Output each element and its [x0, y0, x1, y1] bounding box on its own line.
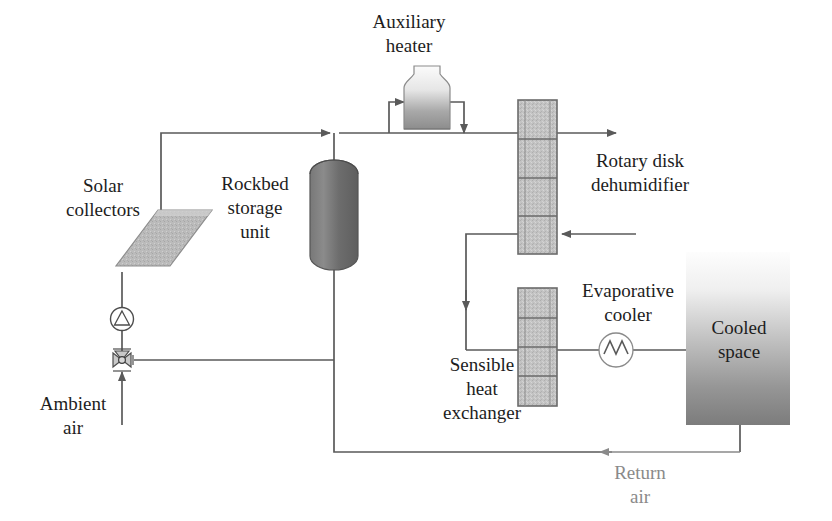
- label-ambient-air-line1: Ambient: [40, 393, 107, 414]
- pipe-heater-outlet: [449, 102, 464, 127]
- circulation-pump: [111, 308, 134, 331]
- label-solar-collectors-line1: Solar: [83, 175, 124, 196]
- label-sensible-hx-line3: exchanger: [443, 402, 522, 423]
- pipe-heater-inlet: [389, 102, 404, 133]
- label-rockbed-line3: unit: [240, 221, 270, 242]
- label-auxiliary-heater-line1: Auxiliary: [373, 11, 446, 32]
- label-sensible-hx-line1: Sensible: [450, 354, 514, 375]
- label-evaporative-cooler-line1: Evaporative: [582, 280, 674, 301]
- label-return-air-line1: Return: [614, 462, 666, 483]
- schematic-diagram: Auxiliary heater Solar collectors Rockbe…: [0, 0, 832, 521]
- schematic-canvas: Auxiliary heater Solar collectors Rockbe…: [0, 0, 832, 521]
- rockbed-storage-unit: [310, 160, 358, 270]
- cooled-space: [686, 252, 790, 425]
- label-auxiliary-heater-line2: heater: [386, 35, 433, 56]
- label-solar-collectors-line2: collectors: [66, 199, 140, 220]
- label-cooled-space-line2: space: [718, 341, 760, 362]
- label-rotary-disk-line1: Rotary disk: [596, 150, 685, 171]
- label-return-air-line2: air: [630, 486, 651, 507]
- label-cooled-space-line1: Cooled: [712, 317, 767, 338]
- three-way-valve: [113, 349, 133, 371]
- label-sensible-hx-line2: heat: [466, 378, 498, 399]
- pipe-dehumidifier-to-hx: [466, 234, 518, 350]
- label-ambient-air-line2: air: [63, 417, 84, 438]
- rotary-disk-dehumidifier: [518, 100, 557, 254]
- sensible-heat-exchanger: [518, 288, 557, 406]
- label-rotary-disk-line2: dehumidifier: [591, 174, 690, 195]
- label-rockbed-line1: Rockbed: [221, 173, 289, 194]
- auxiliary-heater: [404, 66, 450, 129]
- label-rockbed-line2: storage: [228, 197, 283, 218]
- label-evaporative-cooler-line2: cooler: [604, 304, 652, 325]
- evaporative-cooler-symbol: [599, 333, 633, 367]
